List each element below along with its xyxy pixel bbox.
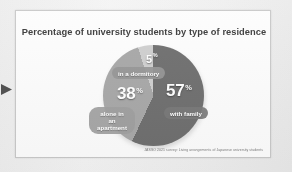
- pie-label-with-family: with family: [164, 107, 208, 119]
- source-credit: JASSO 2021 survey: Living arrangements o…: [144, 148, 263, 152]
- pie-value-with-family: 57%: [166, 82, 192, 99]
- pie-label-alone-apartment: alone in an apartment: [89, 107, 135, 134]
- pie-value-dormitory: 5%: [146, 50, 158, 66]
- pie-label-alone-apartment-line2: an apartment: [97, 117, 127, 131]
- pie-value-alone-apartment: 38%: [117, 85, 143, 102]
- pie-label-dormitory: in a dormitory: [112, 67, 165, 79]
- pie-chart: 5% 38% 57% in a dormitory alone in an ap…: [103, 45, 204, 147]
- page-title: Percentage of university students by typ…: [16, 27, 271, 37]
- slide-panel: Percentage of university students by typ…: [15, 10, 271, 158]
- pie-label-alone-apartment-line1: alone in: [100, 110, 123, 117]
